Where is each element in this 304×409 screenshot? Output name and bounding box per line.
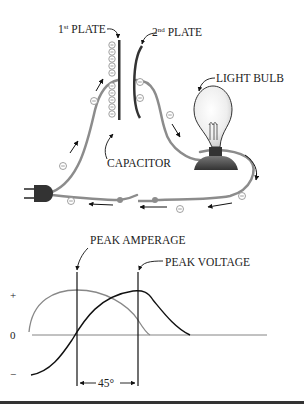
plate2-label: 2nd PLATE [152, 26, 202, 38]
peak-amperage-pointer [77, 248, 88, 270]
amperage-curve [29, 290, 150, 335]
wire-plug-to-plate1 [52, 80, 118, 192]
capacitor-circuit-diagram: 1st PLATE 2nd PLATE LIGHT BULB CAPACITOR… [0, 0, 304, 409]
voltage-curve [31, 291, 190, 375]
electron-stack [109, 42, 115, 117]
plate-1 [118, 40, 121, 120]
y-label-plus: + [10, 289, 16, 301]
capacitor-label: CAPACITOR [107, 157, 171, 169]
bottom-rule [0, 401, 304, 404]
circuit: 1st PLATE 2nd PLATE LIGHT BULB CAPACITOR [24, 23, 284, 213]
light-bulb-icon [194, 86, 238, 170]
phase-shift-label: 45° [98, 377, 115, 389]
y-label-zero: 0 [10, 329, 16, 341]
wire-bottom-left [52, 195, 137, 200]
peak-amperage-label: PEAK AMPERAGE [90, 234, 186, 246]
phase-chart: + 0 − PEAK AMPERAGE PEAK VOLTAGE 45° [10, 234, 267, 389]
y-label-minus: − [10, 368, 16, 380]
plug-icon [24, 185, 53, 202]
peak-voltage-pointer [139, 261, 163, 270]
peak-voltage-label: PEAK VOLTAGE [165, 256, 250, 268]
wire-plate2-to-bulb [136, 80, 200, 160]
light-bulb-label: LIGHT BULB [216, 72, 284, 84]
switch-contact-left [117, 197, 123, 203]
plate1-label: 1st PLATE [58, 23, 106, 35]
